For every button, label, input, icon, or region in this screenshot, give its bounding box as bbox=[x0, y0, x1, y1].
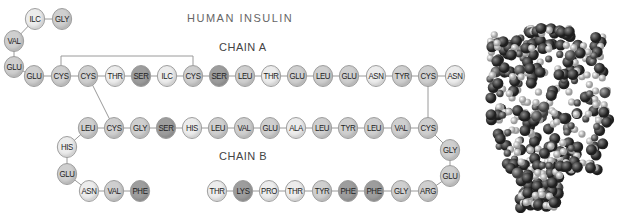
chain-a-residue-ser: SER bbox=[209, 65, 229, 87]
chain-b-residue-tyr: TYR bbox=[338, 117, 358, 139]
chain-a-residue-cys: CYS bbox=[78, 65, 98, 87]
chain-b-residue-ala: ALA bbox=[286, 117, 306, 139]
chain-b-residue-lys: LYS bbox=[233, 180, 253, 202]
chain-a-residue-thr: THR bbox=[105, 65, 125, 87]
chain-a-residue-leu: LEU bbox=[235, 65, 255, 87]
chain-a-residue-glu: GLU bbox=[287, 65, 307, 87]
chain-a-residue-gly: GLY bbox=[52, 8, 72, 30]
chain-a-residue-asn: ASN bbox=[445, 65, 465, 87]
chain-b-residue-gly: GLY bbox=[440, 139, 460, 161]
chain-b-residue-phe: PHE bbox=[338, 180, 358, 202]
chain-b-residue-phe: PHE bbox=[130, 180, 150, 202]
chain-b-residue-tyr: TYR bbox=[312, 180, 332, 202]
chain-b-residue-his: HIS bbox=[182, 117, 202, 139]
chain-b-residue-phe: PHE bbox=[364, 180, 384, 202]
chain-a-residue-glu: GLU bbox=[4, 56, 24, 78]
chain-a-residue-tyr: TYR bbox=[392, 65, 412, 87]
chain-a-residue-ser: SER bbox=[131, 65, 151, 87]
chain-b-residue-val: VAL bbox=[391, 117, 411, 139]
chain-a-residue-cys: CYS bbox=[183, 65, 203, 87]
chain-b-residue-cys: CYS bbox=[418, 117, 438, 139]
chain-a-residue-asn: ASN bbox=[366, 65, 386, 87]
insulin-diagram: HUMAN INSULIN CHAIN A CHAIN B GLYILCVALG… bbox=[0, 0, 620, 215]
chain-b-residue-asn: ASN bbox=[79, 180, 99, 202]
chain-b-residue-leu: LEU bbox=[208, 117, 228, 139]
chain-a-residue-cys: CYS bbox=[418, 65, 438, 87]
chain-b-residue-leu: LEU bbox=[364, 117, 384, 139]
chain-b-residue-glu: GLU bbox=[260, 117, 280, 139]
chain-b-residue-thr: THR bbox=[285, 180, 305, 202]
chain-b-residue-gly: GLY bbox=[391, 180, 411, 202]
chain-a-residue-ilc: ILC bbox=[157, 65, 177, 87]
chain-a-residue-ilc: ILC bbox=[25, 8, 45, 30]
chain-b-residue-leu: LEU bbox=[78, 117, 98, 139]
chain-b-residue-cys: CYS bbox=[104, 117, 124, 139]
chain-a-residue-leu: LEU bbox=[313, 65, 333, 87]
chain-b-residue-pro: PRO bbox=[259, 180, 279, 202]
chain-b-residue-arg: ARG bbox=[418, 180, 438, 202]
chain-a-residue-glu: GLU bbox=[339, 65, 359, 87]
chain-b-residue-gly: GLY bbox=[130, 117, 150, 139]
chain-b-residue-val: VAL bbox=[234, 117, 254, 139]
chain-b-residue-glu: GLU bbox=[440, 165, 460, 187]
chain-a-residue-glu: GLU bbox=[24, 65, 44, 87]
chain-b-residue-leu: LEU bbox=[312, 117, 332, 139]
chain-b-residue-thr: THR bbox=[207, 180, 227, 202]
chain-b-residue-val: VAL bbox=[104, 180, 124, 202]
chain-b-residue-his: HIS bbox=[57, 136, 77, 158]
chain-a-residue-thr: THR bbox=[261, 65, 281, 87]
chain-b-residue-glu: GLU bbox=[57, 163, 77, 185]
chain-a-residue-cys: CYS bbox=[51, 65, 71, 87]
chain-a-residue-val: VAL bbox=[4, 30, 24, 52]
chain-b-residue-ser: SER bbox=[156, 117, 176, 139]
insulin-3d-model-image bbox=[480, 8, 620, 213]
